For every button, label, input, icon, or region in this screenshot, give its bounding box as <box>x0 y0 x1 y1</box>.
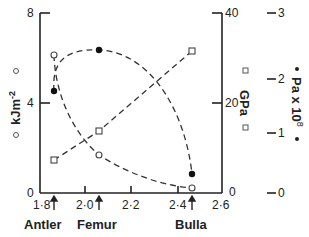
x-tick-2-4: 2·4 <box>169 198 187 212</box>
label-femur: Femur <box>77 217 117 232</box>
plot-frame <box>40 13 222 193</box>
open-circle-icon <box>14 69 19 74</box>
left-axis-label: kJm-2 <box>7 69 23 138</box>
pa-axis-ticks <box>267 13 276 193</box>
y-right-tick-40: 40 <box>225 6 239 20</box>
open-square-icon <box>243 68 248 73</box>
y-far-tick-3: 3 <box>278 6 285 20</box>
open-square-icon <box>243 125 248 130</box>
y-right-tick-0: 0 <box>229 185 236 199</box>
x-tick-2-6: 2·6 <box>212 198 230 212</box>
y-far-tick-0: 0 <box>278 186 285 200</box>
x-tick-2-2: 2·2 <box>122 198 140 212</box>
filled-circle-icon <box>295 137 299 141</box>
svg-text:kJm-2: kJm-2 <box>7 91 23 125</box>
far-right-axis-label: Pa x 108 <box>289 67 305 141</box>
y-left-tick-4: 4 <box>27 96 34 110</box>
series-gpa-markers <box>51 48 195 163</box>
series-kjm-curve <box>54 55 192 188</box>
open-circle-icon <box>14 133 19 138</box>
x-tick-1-8: 1·8 <box>33 198 51 212</box>
right-axis-label: GPa <box>237 68 252 130</box>
y-left-tick-8: 8 <box>27 6 34 20</box>
y-right-tick-20: 20 <box>225 96 239 110</box>
y-far-tick-1: 1 <box>278 126 285 140</box>
series-pa-curve <box>54 50 192 174</box>
series-kjm-markers <box>51 52 195 191</box>
label-bulla: Bulla <box>175 217 208 232</box>
series-gpa-line <box>54 51 192 160</box>
svg-text:Pa x 108: Pa x 108 <box>289 77 305 127</box>
y-far-tick-2: 2 <box>278 72 285 86</box>
x-tick-2-0: 2·0 <box>76 198 94 212</box>
label-antler: Antler <box>24 217 62 232</box>
svg-text:GPa: GPa <box>237 90 252 117</box>
filled-circle-icon <box>295 67 299 71</box>
chart: 8 4 0 40 20 0 3 2 1 0 1·8 2·0 2·2 2·4 2·… <box>0 0 309 237</box>
